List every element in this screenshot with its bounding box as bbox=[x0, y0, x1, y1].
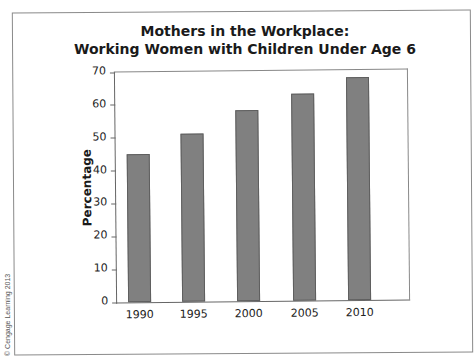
plot-wrapper: Percentage 01020304050607019901995200020… bbox=[0, 0, 474, 361]
bar-1990 bbox=[127, 154, 151, 302]
y-axis-label: Percentage bbox=[80, 149, 95, 226]
y-tick-label: 20 bbox=[77, 230, 107, 242]
bar-1995 bbox=[181, 134, 206, 302]
y-tick-mark bbox=[111, 236, 116, 237]
y-tick-label: 40 bbox=[77, 164, 107, 176]
y-tick-label: 10 bbox=[78, 263, 108, 275]
y-tick-mark bbox=[112, 302, 117, 303]
plot-area: 01020304050607019901995200020052010 bbox=[114, 69, 410, 304]
y-tick-label: 30 bbox=[77, 197, 107, 209]
bar-2010 bbox=[346, 77, 371, 301]
bar-2000 bbox=[235, 110, 260, 301]
y-tick-mark bbox=[112, 269, 117, 270]
x-tick-label: 2010 bbox=[340, 306, 380, 319]
y-tick-mark bbox=[111, 138, 116, 139]
y-tick-label: 0 bbox=[78, 295, 108, 307]
y-tick-mark bbox=[110, 72, 115, 73]
bar-2005 bbox=[291, 93, 316, 300]
y-tick-mark bbox=[111, 170, 116, 171]
y-tick-mark bbox=[110, 105, 115, 106]
y-tick-label: 70 bbox=[76, 65, 106, 77]
x-tick-label: 1990 bbox=[120, 308, 160, 321]
y-tick-label: 60 bbox=[76, 98, 106, 110]
x-tick-label: 2005 bbox=[285, 306, 325, 319]
y-tick-mark bbox=[111, 203, 116, 204]
x-tick-label: 1995 bbox=[174, 307, 214, 320]
x-tick-label: 2000 bbox=[229, 307, 269, 320]
y-tick-label: 50 bbox=[76, 131, 106, 143]
